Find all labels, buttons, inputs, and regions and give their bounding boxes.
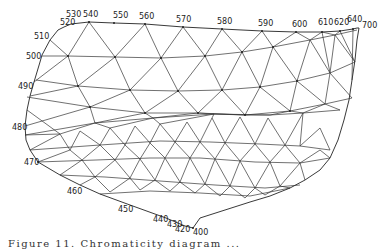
figure-caption: Figure 11. Chromaticity diagram ... — [8, 238, 386, 249]
wavelength-label: 540 — [83, 10, 98, 19]
wavelength-label: 640 — [347, 15, 362, 24]
wavelength-label: 590 — [258, 19, 273, 28]
wavelength-label: 600 — [292, 20, 307, 29]
spectral-locus-outline — [25, 22, 359, 228]
wavelength-label: 520 — [60, 18, 75, 27]
wavelength-label: 570 — [176, 15, 191, 24]
wavelength-label: 530 — [66, 10, 81, 19]
wavelength-label: 460 — [67, 187, 82, 196]
wavelength-label: 450 — [118, 205, 133, 214]
wavelength-label: 400 — [193, 228, 208, 237]
mesh-diagonals — [25, 22, 355, 198]
mesh-rows — [25, 30, 357, 196]
wavelength-label: 700 — [362, 21, 377, 30]
wavelength-label: 510 — [34, 32, 49, 41]
wavelength-label: 490 — [18, 82, 33, 91]
wavelength-label: 550 — [113, 11, 128, 20]
wavelength-labels: 4004204304404504604704804905005105205305… — [12, 10, 377, 237]
wavelength-label: 480 — [12, 123, 27, 132]
wavelength-label: 440 — [153, 215, 168, 224]
wavelength-label: 430 — [167, 220, 182, 229]
wavelength-label: 500 — [26, 52, 41, 61]
wavelength-label: 610 — [318, 18, 333, 27]
wavelength-label: 580 — [217, 17, 232, 26]
wavelength-label: 470 — [24, 158, 39, 167]
wavelength-label: 560 — [139, 12, 154, 21]
